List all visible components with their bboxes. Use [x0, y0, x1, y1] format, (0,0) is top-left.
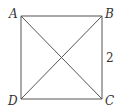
- vertex-label-c: C: [105, 94, 114, 108]
- square-diagram: A B C D 2: [0, 0, 120, 110]
- vertex-label-a: A: [8, 7, 18, 21]
- vertex-label-d: D: [7, 94, 18, 108]
- vertex-label-b: B: [104, 7, 114, 21]
- side-length-label: 2: [106, 51, 114, 65]
